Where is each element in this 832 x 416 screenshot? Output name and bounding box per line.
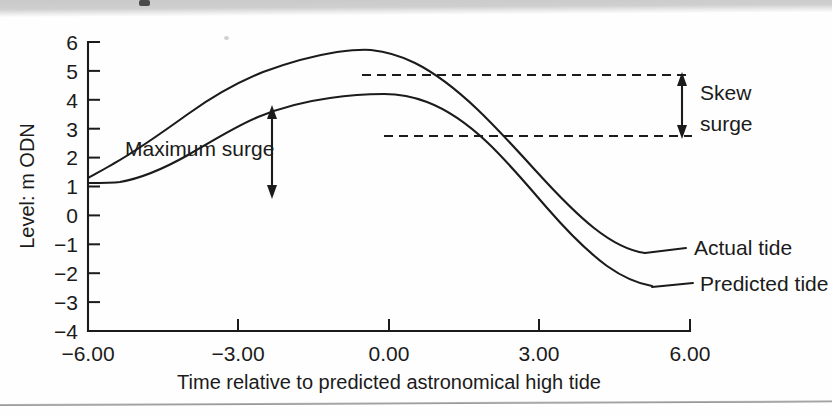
series-leader-lines (645, 248, 693, 287)
y-tick-label-neg1: −1 (54, 233, 78, 256)
figure-page: 6 5 4 3 2 1 0 −1 −2 −3 −4 −6.00 −3.00 0.… (0, 0, 832, 416)
y-tick-label-5: 5 (66, 60, 78, 83)
chart-axes (88, 42, 690, 331)
y-tick-label-2: 2 (66, 146, 78, 169)
skew-surge-guide-lines (362, 75, 692, 136)
y-tick-label-neg4: −4 (54, 320, 78, 343)
annotation-skew-surge: Skew surge (677, 72, 753, 139)
x-tick-label-0: 0.00 (369, 342, 410, 365)
x-axis-ticks (88, 319, 690, 331)
y-tick-label-1: 1 (66, 175, 78, 198)
y-tick-label-neg3: −3 (54, 291, 78, 314)
series-label-actual-tide: Actual tide (694, 236, 792, 259)
y-tick-label-3: 3 (66, 118, 78, 141)
series-label-predicted-tide: Predicted tide (700, 272, 828, 295)
y-tick-label-4: 4 (66, 89, 78, 112)
maximum-surge-arrowhead-down (267, 185, 277, 199)
predicted-tide-leader-line (652, 283, 693, 287)
y-tick-label-6: 6 (66, 31, 78, 54)
predicted-tide-curve (88, 94, 652, 286)
y-tick-label-0: 0 (66, 204, 78, 227)
skew-surge-label-line-1: Skew (700, 81, 752, 104)
maximum-surge-label: Maximum surge (125, 137, 274, 160)
tide-surge-line-chart: 6 5 4 3 2 1 0 −1 −2 −3 −4 −6.00 −3.00 0.… (0, 0, 832, 416)
x-tick-label-neg6: −6.00 (61, 342, 114, 365)
x-axis-title: Time relative to predicted astronomical … (177, 371, 601, 393)
y-axis-tick-labels: 6 5 4 3 2 1 0 −1 −2 −3 −4 (54, 31, 78, 343)
y-axis-title: Level: m ODN (16, 123, 38, 249)
y-tick-label-neg2: −2 (54, 262, 78, 285)
skew-surge-label-line-2: surge (700, 112, 753, 135)
x-tick-label-neg3: −3.00 (211, 342, 264, 365)
x-tick-label-6: 6.00 (670, 342, 711, 365)
x-tick-label-3: 3.00 (519, 342, 560, 365)
x-axis-tick-labels: −6.00 −3.00 0.00 3.00 6.00 (61, 342, 710, 365)
series-predicted-tide (88, 94, 652, 286)
y-axis-ticks (88, 42, 100, 331)
actual-tide-leader-line (645, 248, 686, 253)
